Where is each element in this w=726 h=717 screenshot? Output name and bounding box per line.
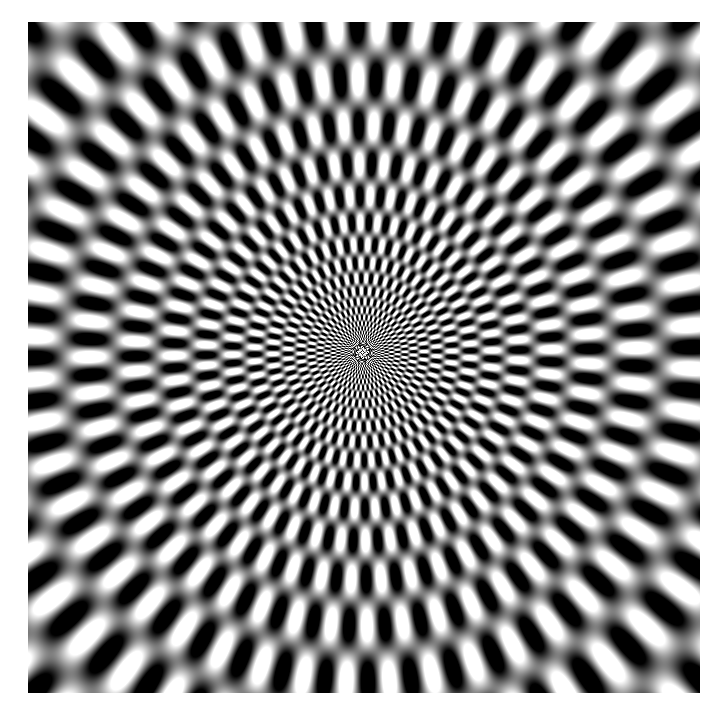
spiral-illusion-image	[28, 22, 700, 693]
spiral-illusion-canvas	[28, 22, 700, 693]
